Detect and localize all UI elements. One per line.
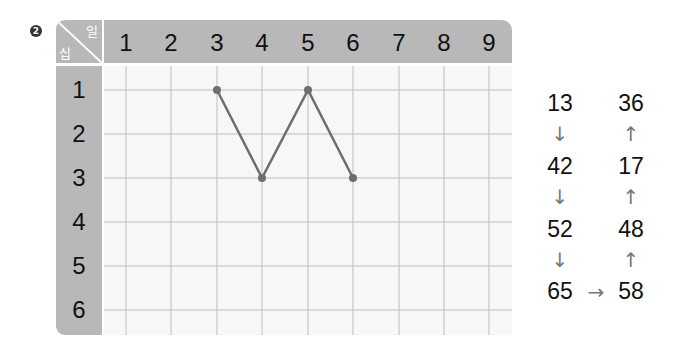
- sequence-number: 52: [535, 216, 585, 243]
- number-grid: [104, 66, 512, 335]
- row-header: 3: [56, 158, 102, 198]
- row-header: 2: [56, 114, 102, 154]
- table-corner-cell: 일 십: [56, 20, 102, 63]
- grid-lines-and-path: [104, 66, 512, 335]
- column-header: 6: [333, 20, 373, 63]
- column-header: 2: [151, 20, 191, 63]
- arrow-up-icon: ↑: [616, 122, 646, 146]
- arrow-down-icon: ↓: [545, 185, 575, 209]
- sequence-number: 48: [606, 216, 656, 243]
- row-header-bar: 1 2 3 4 5 6: [56, 66, 102, 335]
- column-header: 7: [379, 20, 419, 63]
- arrow-up-icon: ↑: [616, 185, 646, 209]
- row-header: 1: [56, 70, 102, 110]
- sequence-number: 42: [535, 153, 585, 180]
- column-header: 8: [424, 20, 464, 63]
- sequence-number: 65: [535, 278, 585, 305]
- arrow-up-icon: ↑: [616, 248, 646, 272]
- row-header: 6: [56, 290, 102, 330]
- column-header: 4: [242, 20, 282, 63]
- tens-axis-label: 십: [59, 43, 71, 62]
- row-header: 4: [56, 202, 102, 242]
- arrow-down-icon: ↓: [545, 248, 575, 272]
- column-header-bar: 1 2 3 4 5 6 7 8 9: [104, 20, 512, 63]
- sequence-number: 13: [535, 90, 585, 117]
- problem-number-badge: 2: [30, 25, 42, 37]
- column-header: 5: [288, 20, 328, 63]
- sequence-number: 36: [606, 90, 656, 117]
- column-header: 3: [197, 20, 237, 63]
- sequence-number: 17: [606, 153, 656, 180]
- column-header: 1: [106, 20, 146, 63]
- row-header: 5: [56, 246, 102, 286]
- sequence-number: 58: [606, 278, 656, 305]
- arrow-down-icon: ↓: [545, 122, 575, 146]
- column-header: 9: [469, 20, 509, 63]
- ones-axis-label: 일: [86, 21, 98, 40]
